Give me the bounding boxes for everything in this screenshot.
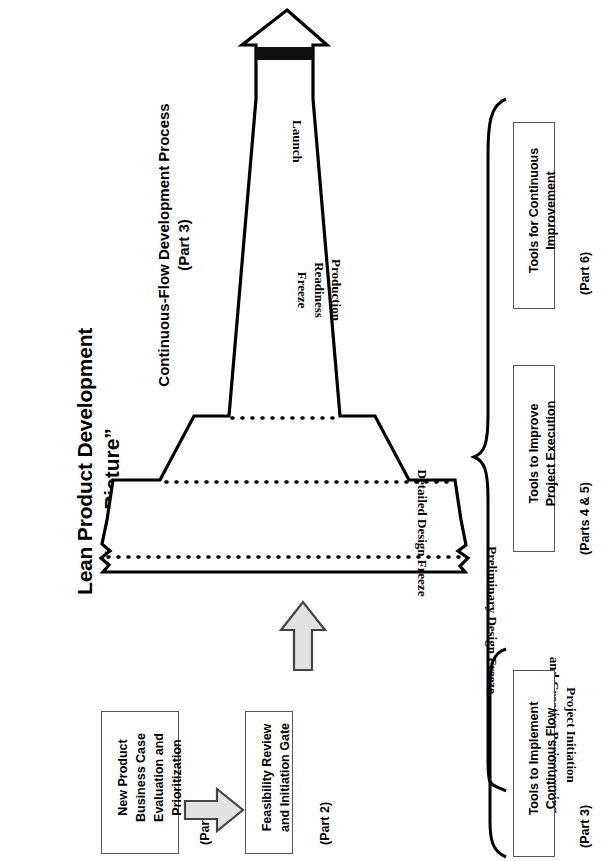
side-box-project-execution-text: Tools to Improve Project Execution <box>526 360 560 547</box>
flow-box-np-line1: New Product <box>114 706 132 849</box>
side-box-continuous-flow-text: Tools to Implement Continuous Flow <box>526 665 560 852</box>
lower-brace <box>470 645 510 861</box>
side-box-cf-line1: Tools to Implement <box>526 665 543 852</box>
side-box-continuous-flow[interactable]: Tools to Implement Continuous Flow <box>513 670 555 857</box>
side-box-pe-line1: Tools to Improve <box>526 360 543 547</box>
flow-box-feasibility-text: Feasibility Review and Initiation Gate <box>258 706 294 849</box>
flow-box-fr-line1: Feasibility Review <box>258 706 276 849</box>
diagram-canvas: Lean Product Development “Big Picture” C… <box>0 0 603 861</box>
flow-box-new-product-text: New Product Business Case Evaluation and… <box>114 706 186 849</box>
label-launch: Launch <box>289 120 305 163</box>
side-box-ci-line1: Tools for Continuous <box>526 117 543 304</box>
flow-box-np-line3: Evaluation and <box>150 706 168 849</box>
flow-box-np-line2: Business Case <box>132 706 150 849</box>
flow-box-new-product-business-case[interactable]: New Product Business Case Evaluation and… <box>101 711 179 854</box>
side-box-continuous-improvement[interactable]: Tools for Continuous Improvement <box>513 122 555 309</box>
side-box-cf-line2: Continuous Flow <box>543 665 560 852</box>
arrow-feasibility-to-pyramid-icon <box>278 600 328 672</box>
side-box-pe-line2: Project Execution <box>543 360 560 547</box>
part-tag-2-second: (Part 2) <box>318 802 332 845</box>
side-box-project-execution[interactable]: Tools to Improve Project Execution <box>513 365 555 552</box>
label-production-readiness-freeze: Production Readiness Freeze <box>294 230 345 350</box>
label-production-line1: Production <box>328 230 345 350</box>
side-box-ci-line2: Improvement <box>543 117 560 304</box>
flow-box-fr-line2: and Initiation Gate <box>276 706 294 849</box>
arrow-newproduct-to-feasibility-icon <box>183 785 245 835</box>
side-box-continuous-improvement-text: Tools for Continuous Improvement <box>526 117 560 304</box>
part-tag-4-5: (Parts 4 & 5) <box>578 482 592 555</box>
flow-box-feasibility-review[interactable]: Feasibility Review and Initiation Gate <box>245 711 293 854</box>
part-tag-6: (Part 6) <box>578 252 592 295</box>
label-production-line2: Readiness <box>311 230 328 350</box>
label-detailed-design-freeze: Detailed Design Freeze <box>414 383 430 683</box>
part-tag-3: (Part 3) <box>578 805 592 848</box>
launch-band <box>256 47 313 60</box>
label-production-line3: Freeze <box>294 230 311 350</box>
